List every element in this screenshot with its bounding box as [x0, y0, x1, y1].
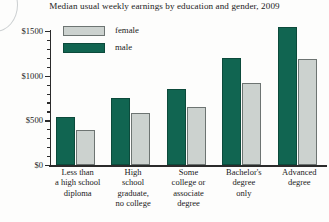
x-category-label-line: graduate, — [105, 188, 160, 198]
bar-female — [242, 83, 261, 165]
x-category-label-line: no college — [105, 198, 160, 208]
y-tick-minor — [47, 129, 51, 130]
legend-swatch-male-icon — [63, 43, 105, 53]
y-tick-minor — [47, 40, 51, 41]
bar-male — [167, 89, 186, 165]
chart-figure: Median usual weekly earnings by educatio… — [0, 0, 329, 222]
x-category-label-line: school — [105, 177, 160, 187]
bar-female — [298, 59, 317, 165]
chart-title: Median usual weekly earnings by educatio… — [0, 1, 329, 11]
y-tick-minor — [47, 49, 51, 50]
x-category-label-line: degree — [272, 177, 327, 187]
x-category-label-line: Advanced — [272, 167, 327, 177]
chart-legend: female male — [63, 25, 183, 59]
bar-male — [111, 98, 130, 165]
bar-male — [56, 117, 75, 165]
x-category-label-line: Some — [161, 167, 216, 177]
x-category-label: Somecollege orassociatedegree — [161, 167, 216, 209]
y-tick-major — [45, 31, 51, 32]
y-axis-line — [50, 30, 51, 166]
y-tick-label: $1000 — [22, 71, 43, 81]
x-category-label: Advanceddegree — [272, 167, 327, 188]
x-category-label-line: diploma — [50, 188, 105, 198]
y-tick-minor — [47, 94, 51, 95]
y-tick-minor — [47, 58, 51, 59]
x-category-label: Less thana high schooldiploma — [50, 167, 105, 198]
legend-item-female: female — [63, 25, 183, 39]
x-category-label-line: Less than — [50, 167, 105, 177]
y-tick-minor — [47, 111, 51, 112]
bar-female — [76, 130, 95, 165]
y-tick-minor — [47, 147, 51, 148]
x-category-label-line: college or — [161, 177, 216, 187]
x-category-label: Highschoolgraduate,no college — [105, 167, 160, 209]
y-tick-minor — [47, 85, 51, 86]
y-tick-major — [45, 165, 51, 166]
y-tick-label: $0 — [34, 160, 43, 170]
legend-label-male: male — [115, 42, 132, 52]
bar-male — [278, 27, 297, 165]
legend-swatch-female-icon — [63, 26, 105, 36]
bar-female — [131, 113, 150, 165]
x-category-label-line: degree — [161, 198, 216, 208]
bar-male — [222, 58, 241, 165]
x-category-label-line: degree — [216, 177, 271, 187]
y-tick-label: $500 — [26, 115, 43, 125]
y-tick-major — [45, 120, 51, 121]
legend-item-male: male — [63, 42, 183, 56]
y-tick-minor — [47, 156, 51, 157]
x-category-label: Bachelor'sdegreeonly — [216, 167, 271, 198]
x-category-label-line: only — [216, 188, 271, 198]
legend-label-female: female — [115, 25, 139, 35]
y-tick-label: $1500 — [22, 26, 43, 36]
y-tick-minor — [47, 138, 51, 139]
y-tick-major — [45, 76, 51, 77]
y-tick-minor — [47, 67, 51, 68]
x-category-label-line: associate — [161, 188, 216, 198]
x-category-label-line: Bachelor's — [216, 167, 271, 177]
x-category-label-line: High — [105, 167, 160, 177]
bar-female — [187, 107, 206, 165]
x-category-label-line: a high school — [50, 177, 105, 187]
y-tick-minor — [47, 102, 51, 103]
